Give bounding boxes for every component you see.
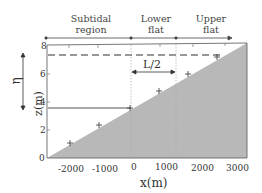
x-axis-title: x(m) xyxy=(140,176,168,190)
x-tick-neg2000: -2000 xyxy=(58,164,84,174)
region-label-upper-flat: Upper flat xyxy=(193,13,229,35)
half-length-label: L/2 xyxy=(143,58,161,71)
region-label-subtidal: Subtidal region xyxy=(68,13,114,35)
x-tick-3000: 3000 xyxy=(226,163,249,173)
y-tick-4: 4 xyxy=(40,97,46,107)
region-bracket xyxy=(45,36,232,40)
x-tick-neg1000: -1000 xyxy=(92,164,118,174)
x-tick-0: 0 xyxy=(131,162,137,172)
x-tick-1000: 1000 xyxy=(155,162,178,172)
y-tick-8: 8 xyxy=(41,41,47,51)
y-tick-6: 6 xyxy=(40,69,46,79)
y-tick-2: 2 xyxy=(40,125,46,135)
y-tick-0: 0 xyxy=(39,153,45,163)
x-tick-2000: 2000 xyxy=(191,163,214,173)
region-label-lower-flat: Lower flat xyxy=(138,13,174,35)
eta-label: η xyxy=(9,77,23,84)
